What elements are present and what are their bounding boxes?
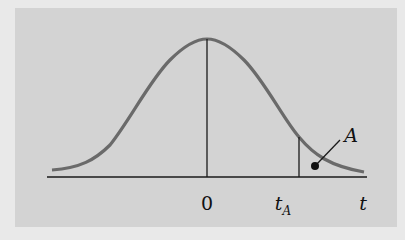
- axis-label-t: t: [359, 194, 367, 213]
- t-a-main: t: [275, 192, 283, 214]
- density-curve: [52, 39, 364, 172]
- area-dot: [311, 162, 319, 170]
- tick-label-zero: 0: [201, 194, 213, 213]
- tick-label-t-a: tA: [275, 194, 291, 217]
- area-label-a: A: [344, 126, 358, 145]
- t-a-subscript: A: [282, 204, 291, 218]
